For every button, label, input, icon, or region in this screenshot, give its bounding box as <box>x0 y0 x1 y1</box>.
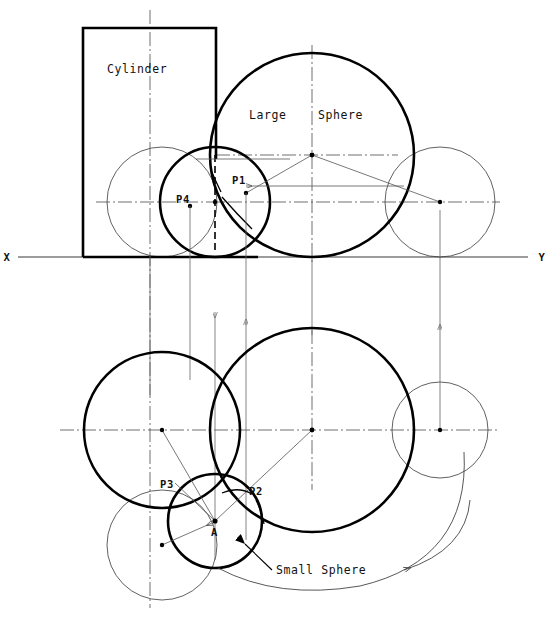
label-p1: P1 <box>232 174 246 186</box>
front-view-group: Cylinder Large Sphere P1 P4 <box>83 28 442 257</box>
point-dot-left-sphere-top-center <box>160 428 164 432</box>
label-small-sphere: Small Sphere <box>276 563 366 577</box>
point-dot-lower-left-aux-center <box>160 543 164 547</box>
point-dot-small-sphere-center-front <box>213 200 217 204</box>
label-p4: P4 <box>176 193 190 205</box>
radius-line-top-p3-to-a <box>175 483 215 521</box>
point-dot-large-sphere-top-center <box>310 428 315 433</box>
top-view-group: P3 P2 A Small Sphere <box>84 328 470 590</box>
axis-label-x: X <box>4 251 11 263</box>
label-p2: P2 <box>249 485 263 497</box>
swing-arc-arrowhead-branch <box>404 500 470 570</box>
projection-line-group <box>150 193 440 560</box>
axis-label-y: Y <box>539 251 546 263</box>
point-dot-a <box>212 518 217 523</box>
point-dot-right-aux-center-top <box>438 428 442 432</box>
label-a: A <box>211 526 218 538</box>
point-dot-large-sphere-center <box>310 153 315 158</box>
engineering-drawing-svg: X Y <box>0 0 557 618</box>
radius-line-center-to-right-aux <box>312 155 440 202</box>
label-cylinder: Cylinder <box>107 62 167 76</box>
label-p3: P3 <box>160 478 174 490</box>
technical-drawing-canvas: X Y <box>0 0 557 618</box>
label-large: Large <box>249 108 287 122</box>
point-dot-right-aux-center-front <box>438 200 442 204</box>
centerline-group <box>60 10 500 608</box>
radius-line-center-to-p1 <box>246 155 312 193</box>
leader-line-small-sphere <box>245 544 272 570</box>
label-sphere: Sphere <box>318 108 363 122</box>
